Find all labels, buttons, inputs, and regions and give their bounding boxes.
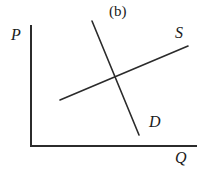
demand-curve-label: D xyxy=(149,114,161,130)
demand-curve xyxy=(92,21,139,135)
supply-curve-label: S xyxy=(175,25,183,41)
supply-demand-diagram: (b) P Q S D xyxy=(0,0,200,171)
diagram-canvas xyxy=(0,0,200,171)
x-axis-label-quantity: Q xyxy=(175,150,187,166)
y-axis-label-price: P xyxy=(11,27,21,43)
panel-label: (b) xyxy=(109,4,127,19)
supply-curve xyxy=(60,46,188,100)
